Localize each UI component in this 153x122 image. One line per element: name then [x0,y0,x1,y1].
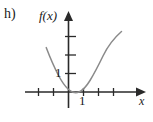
x-tick-label-1: 1 [79,94,86,107]
y-axis-label: f(x) [39,9,57,22]
y-tick-label-1: 1 [55,66,62,79]
parabola-plot [0,0,153,122]
math-figure: h) f(x) x 1 1 [0,0,153,122]
part-label: h) [4,7,16,21]
y-axis-arrow-icon [64,11,73,21]
y-axis-ticks [65,37,76,74]
parabola-curve [46,32,121,93]
x-axis-label: x [139,95,144,107]
